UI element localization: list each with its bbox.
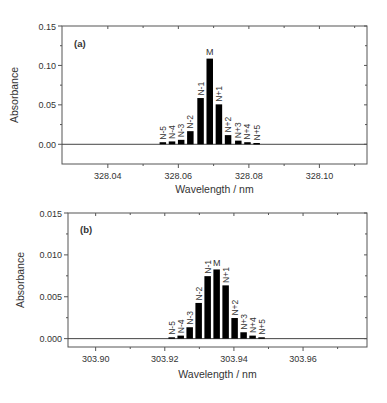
- y-tick-label: 0.000: [39, 334, 62, 344]
- bar-N-5: [168, 337, 175, 339]
- x-tick-label: 303.94: [220, 354, 248, 364]
- y-axis-label: Absorbance: [14, 252, 26, 308]
- chart-panel-b: 0.0000.0050.0100.015303.90303.92303.9430…: [14, 209, 367, 381]
- bar-N-2: [195, 303, 202, 339]
- bar-label: N+5: [257, 319, 267, 335]
- bar-label: N+5: [252, 124, 262, 140]
- bar-label: N+1: [214, 86, 224, 102]
- panel-label: (b): [80, 224, 92, 235]
- x-tick-label: 328.06: [165, 171, 193, 181]
- bar-label: N-2: [194, 286, 204, 300]
- y-tick-label: 0.00: [38, 140, 56, 150]
- x-axis-label: Wavelength / nm: [178, 368, 257, 380]
- x-tick-label: 303.92: [151, 354, 179, 364]
- bar-label: N-2: [185, 115, 195, 129]
- bar-N+5: [258, 337, 265, 339]
- bar-N-3: [178, 140, 185, 144]
- x-axis-label: Wavelength / nm: [175, 183, 254, 195]
- bar-N+3: [240, 332, 247, 338]
- chart-panel-a: 0.000.050.100.15328.04328.06328.08328.10…: [8, 22, 367, 196]
- bar-N-4: [169, 141, 176, 144]
- bar-N-1: [197, 98, 204, 144]
- bar-label: N-3: [185, 311, 195, 325]
- x-tick-label: 328.04: [94, 171, 122, 181]
- bar-N-3: [186, 327, 193, 338]
- bar-N+2: [231, 318, 238, 339]
- y-tick-label: 0.05: [38, 100, 56, 110]
- bar-label: N+1: [221, 267, 231, 283]
- x-tick-label: 328.08: [235, 171, 263, 181]
- x-tick-label: 303.90: [82, 354, 110, 364]
- y-tick-label: 0.15: [38, 22, 56, 32]
- y-tick-label: 0.005: [39, 292, 62, 302]
- bar-N+1: [222, 285, 229, 338]
- bar-N-4: [177, 336, 184, 339]
- y-axis-label: Absorbance: [8, 67, 20, 123]
- y-tick-label: 0.10: [38, 61, 56, 71]
- bar-N+5: [253, 143, 260, 145]
- y-tick-label: 0.015: [39, 209, 62, 219]
- figure: 0.000.050.100.15328.04328.06328.08328.10…: [0, 0, 387, 403]
- bar-N+3: [235, 141, 242, 145]
- panel-label: (a): [74, 38, 86, 49]
- bar-N+1: [216, 104, 223, 144]
- bar-N+2: [225, 135, 232, 144]
- bar-label: M: [213, 258, 221, 268]
- bar-label: N+2: [230, 299, 240, 315]
- bar-N+4: [244, 142, 251, 144]
- x-tick-label: 328.10: [306, 171, 334, 181]
- x-tick-label: 303.96: [289, 354, 317, 364]
- bar-label: N+2: [223, 117, 233, 133]
- y-tick-label: 0.010: [39, 250, 62, 260]
- bar-label: N-1: [196, 82, 206, 96]
- bar-N-2: [187, 131, 194, 144]
- bar-label: M: [206, 47, 214, 57]
- bar-M: [206, 59, 213, 145]
- bar-M: [213, 269, 220, 338]
- bar-N+4: [249, 336, 256, 339]
- bar-N-1: [204, 276, 211, 338]
- bar-N-5: [160, 142, 167, 144]
- bar-label: N-1: [203, 260, 213, 274]
